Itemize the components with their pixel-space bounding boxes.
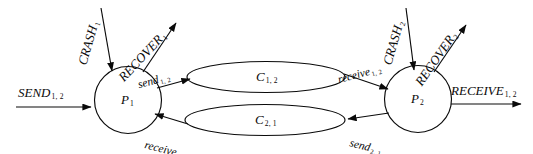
node-p2-circle: [385, 66, 452, 133]
edge-receive21-arrow: [155, 114, 188, 124]
protocol-state-diagram: P1 P2 C1, 2 C2, 1 SEND1, 2 CRASH1 RECOVE…: [0, 0, 533, 154]
node-p1-circle: [95, 67, 162, 134]
channel-c21-ellipse: [185, 105, 345, 136]
edge-send21-arrow: [348, 113, 389, 119]
diagram-canvas: [0, 0, 533, 154]
edge-crash1-arrow: [101, 8, 112, 71]
edge-receive12-arrow: [344, 74, 388, 89]
edge-recover1-arrow: [143, 23, 176, 72]
edge-recover2-arrow: [434, 25, 466, 72]
edge-crash2-arrow: [406, 8, 414, 70]
channel-c12-ellipse: [187, 62, 345, 93]
edge-send12-arrow: [157, 79, 190, 88]
